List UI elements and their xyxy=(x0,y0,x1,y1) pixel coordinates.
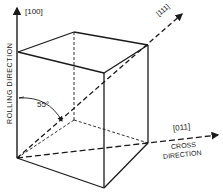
edge-top-front xyxy=(18,52,104,73)
edge-top-left xyxy=(18,32,74,52)
edge-top-right xyxy=(104,45,148,73)
edge-top-back xyxy=(74,32,148,45)
label-100: [100] xyxy=(25,8,43,16)
label-angle: 55° xyxy=(37,101,49,109)
hidden-edge-back-right xyxy=(74,120,148,143)
label-rolling-direction: ROLLING DIRECTION xyxy=(6,43,13,124)
edge-bottom-right xyxy=(104,143,148,188)
cube-diagram xyxy=(0,0,223,196)
edge-bottom-front xyxy=(17,158,104,188)
diagonal-111-axis xyxy=(17,14,182,158)
